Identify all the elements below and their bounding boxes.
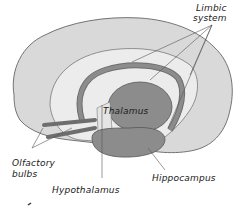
label-olfactory-line1: Olfactory	[12, 159, 55, 168]
label-limbic-line1: Limbic	[196, 4, 227, 13]
label-olfactory-line2: bulbs	[12, 170, 37, 179]
stray-mark	[28, 203, 31, 205]
hippocampus-shape	[92, 128, 165, 158]
label-limbic-line2: system	[193, 14, 227, 23]
label-hypothalamus: Hypothalamus	[52, 186, 120, 195]
label-thalamus: Thalamus	[103, 107, 149, 116]
label-hippocampus: Hippocampus	[152, 174, 216, 183]
